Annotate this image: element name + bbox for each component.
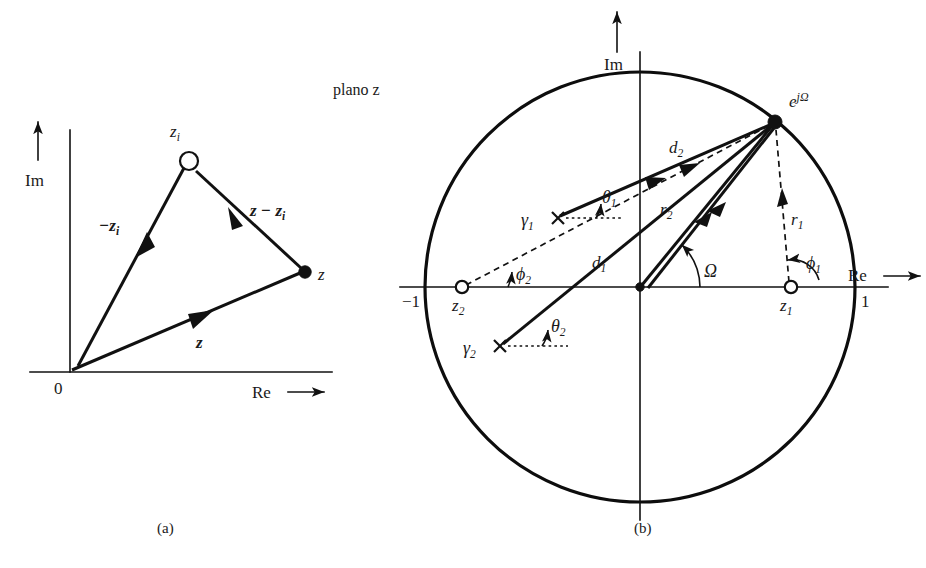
pole-gamma1-label: γ1 — [521, 210, 534, 232]
vector-r1-label: r1 — [791, 210, 803, 231]
angle-phi2-arc — [508, 272, 512, 287]
angle-omega-arc — [682, 245, 700, 287]
vector-d2-arrowhead-icon — [645, 177, 666, 190]
angle-theta2-label: θ2 — [551, 316, 566, 338]
vector-minus-zi-label: −zi — [99, 216, 120, 237]
zero-zi-marker-icon — [180, 152, 198, 170]
figure-title-text: plano z — [333, 81, 380, 99]
zero-z2-label: z2 — [451, 296, 465, 317]
panel-a-caption: (a) — [157, 520, 174, 537]
panel-b-origin-marker-icon — [636, 283, 644, 291]
vector-r2-dashed-arrowhead-icon — [679, 163, 700, 177]
panel-a-re-label: Re — [252, 383, 271, 402]
angle-omega-label: Ω — [704, 261, 717, 281]
evaluation-point-label: ejΩ — [789, 90, 809, 111]
angle-phi2-label: ϕ2 — [516, 264, 531, 286]
vector-r1-arrowhead-icon — [777, 188, 788, 207]
pole-gamma2-label: γ2 — [463, 338, 476, 360]
zero-zi-label: zi — [169, 122, 180, 143]
panel-b-caption: (b) — [634, 520, 652, 537]
vector-z — [72, 273, 300, 370]
angle-phi1-label: ϕ1 — [806, 253, 821, 275]
panel-b-re-label: Re — [848, 266, 867, 285]
vector-minus-zi-arrowhead-icon — [135, 232, 155, 258]
vector-d2-label: d2 — [669, 138, 684, 159]
figure-title: plano z — [333, 81, 380, 99]
point-z-marker-icon — [299, 266, 311, 278]
vector-d1-label: d1 — [592, 253, 606, 274]
vector-d1 — [503, 125, 772, 344]
vector-z-label: z — [195, 333, 203, 352]
panel-a: Im Re 0 −zi z − zi z zi z (a) — [25, 122, 332, 537]
panel-b-im-label: Im — [604, 55, 623, 74]
zero-z1-marker-icon — [785, 281, 797, 293]
zero-z1-label: z1 — [779, 296, 792, 317]
pole-gamma1-marker-icon — [552, 212, 564, 224]
figure-root: plano z Im Re 0 −zi z − zi z — [0, 0, 926, 568]
vector-z-minus-zi-label: z − zi — [249, 201, 286, 222]
vector-z-minus-zi — [196, 171, 301, 268]
panel-b: Re Im −1 1 d2 d1 r2 — [400, 12, 920, 537]
angle-theta2-arc — [542, 330, 548, 346]
evaluation-point-marker-icon — [768, 115, 782, 129]
vector-z-arrowhead-icon — [188, 310, 214, 329]
vector-r2-label: r2 — [660, 200, 673, 221]
unit-label-right: 1 — [861, 292, 870, 311]
point-z-label: z — [317, 265, 325, 284]
unit-label-left: −1 — [402, 292, 420, 311]
pole-gamma2-marker-icon — [494, 340, 506, 352]
panel-a-origin-label: 0 — [54, 379, 63, 398]
vector-r2-dashed-from-z2 — [466, 124, 772, 285]
svg-text:plano z: plano z — [333, 81, 380, 99]
vector-minus-zi — [78, 168, 184, 366]
angle-theta1-label: θ1 — [602, 187, 617, 209]
z-plane-figure: plano z Im Re 0 −zi z − zi z — [0, 0, 926, 568]
panel-a-im-label: Im — [25, 171, 44, 190]
zero-z2-marker-icon — [456, 281, 468, 293]
